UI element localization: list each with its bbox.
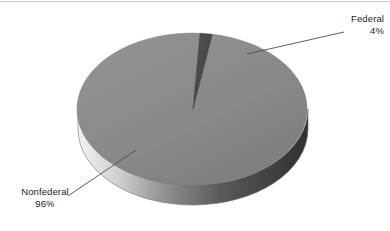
pie-slice-nonfederal xyxy=(77,33,307,185)
slice-label-nonfederal: Nonfederal 96% xyxy=(6,186,84,210)
leader-line-federal xyxy=(247,32,344,54)
slice-label-nonfederal-percent: 96% xyxy=(6,198,84,210)
slice-label-federal-name: Federal xyxy=(351,13,384,25)
pie-chart-figure: Federal 4% Nonfederal 96% xyxy=(0,0,390,231)
slice-label-nonfederal-name: Nonfederal xyxy=(6,186,84,198)
slice-label-federal: Federal 4% xyxy=(351,13,384,37)
slice-label-federal-percent: 4% xyxy=(351,25,384,37)
